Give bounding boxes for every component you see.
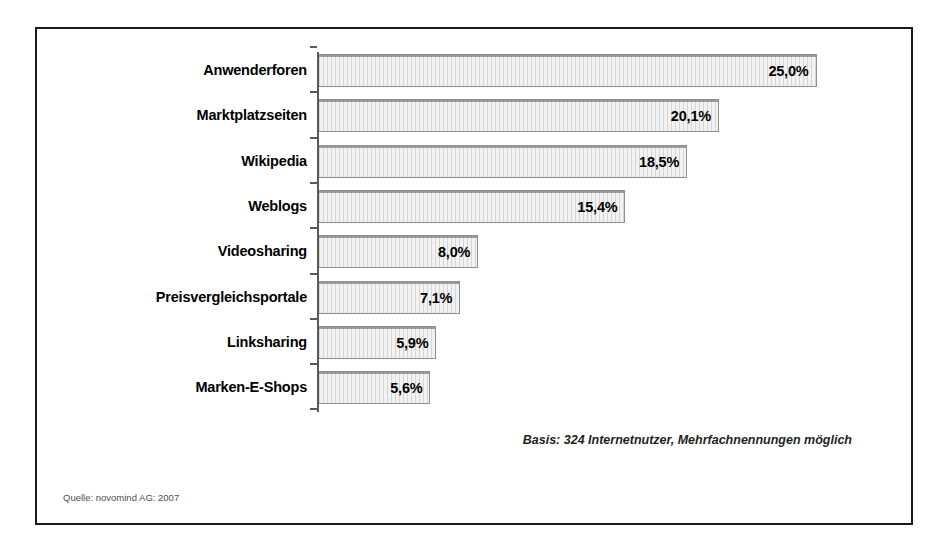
bar-row: Preisvergleichsportale7,1% [37,281,915,314]
category-label-1: Anwenderforen [57,54,317,87]
bar-7: 5,9% [319,326,436,359]
y-tick-2 [310,91,317,93]
bar-row: Marktplatzseiten20,1% [37,99,915,132]
category-label-4: Weblogs [57,190,317,223]
bar-row: Marken-E-Shops5,6% [37,371,915,404]
bar-row: Linksharing5,9% [37,326,915,359]
y-tick-end [310,408,317,410]
y-tick-3 [310,137,317,139]
y-tick-7 [310,318,317,320]
y-tick-1 [310,46,317,48]
bar-value-label-6: 7,1% [420,282,452,315]
y-tick-5 [310,227,317,229]
bar-top-edge [319,100,718,102]
bar-top-edge [319,55,816,57]
bar-4: 15,4% [319,190,625,223]
source-annotation: Quelle: novomind AG: 2007 [63,492,179,503]
category-label-2: Marktplatzseiten [57,99,317,132]
category-label-7: Linksharing [57,326,317,359]
bar-value-label-3: 18,5% [639,146,679,179]
bar-6: 7,1% [319,281,460,314]
bar-value-label-5: 8,0% [438,236,470,269]
y-tick-6 [310,273,317,275]
bar-value-label-2: 20,1% [671,100,711,133]
bar-3: 18,5% [319,145,687,178]
bar-row: Weblogs15,4% [37,190,915,223]
bar-value-label-1: 25,0% [768,55,808,88]
bar-8: 5,6% [319,371,430,404]
category-label-6: Preisvergleichsportale [57,281,317,314]
y-tick-8 [310,363,317,365]
bar-1: 25,0% [319,54,817,87]
y-tick-4 [310,182,317,184]
bar-row: Wikipedia18,5% [37,145,915,178]
bar-top-edge [319,146,686,148]
bar-value-label-4: 15,4% [577,191,617,224]
bar-row: Anwenderforen25,0% [37,54,915,87]
bar-5: 8,0% [319,235,478,268]
bar-value-label-7: 5,9% [396,327,428,360]
category-label-5: Videosharing [57,235,317,268]
basis-annotation: Basis: 324 Internetnutzer, Mehrfachnennu… [37,433,852,447]
category-label-8: Marken-E-Shops [57,371,317,404]
chart-frame: Anwenderforen25,0%Marktplatzseiten20,1%W… [35,27,913,525]
bar-value-label-8: 5,6% [390,372,422,405]
bar-2: 20,1% [319,99,719,132]
bar-row: Videosharing8,0% [37,235,915,268]
plot-area: Anwenderforen25,0%Marktplatzseiten20,1%W… [37,29,915,527]
category-label-3: Wikipedia [57,145,317,178]
